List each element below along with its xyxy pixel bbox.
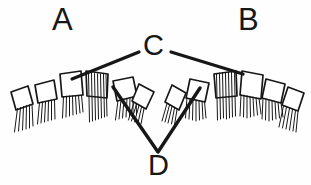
label-d: D <box>148 151 169 180</box>
label-b: B <box>238 4 259 35</box>
label-c: C <box>143 31 164 60</box>
dental-arch-figure: A B C D <box>0 0 311 185</box>
label-a: A <box>52 4 73 35</box>
